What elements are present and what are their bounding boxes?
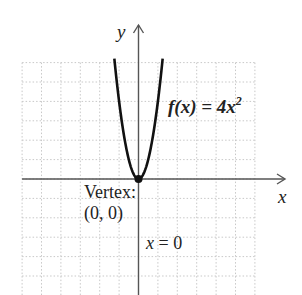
function-label-base: f(x) = 4x xyxy=(168,96,236,117)
vertex-title: Vertex: xyxy=(84,183,136,201)
function-label-exponent: 2 xyxy=(236,94,242,108)
vertex-coords: (0, 0) xyxy=(84,204,136,222)
symmetry-variable: x xyxy=(146,233,154,253)
y-axis-label: y xyxy=(117,22,125,41)
symmetry-equals: = 0 xyxy=(154,233,182,253)
function-label: f(x) = 4x2 xyxy=(168,96,242,116)
vertex-label: Vertex: (0, 0) xyxy=(84,183,136,222)
x-axis-label: x xyxy=(278,187,286,206)
axis-of-symmetry-label: x = 0 xyxy=(146,234,182,252)
